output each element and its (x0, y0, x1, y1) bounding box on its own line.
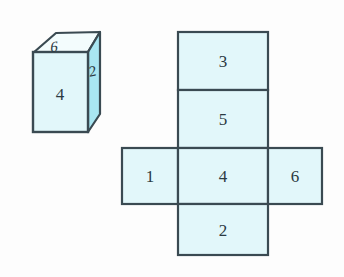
box-right-face (88, 32, 100, 132)
net-cell-center-label: 4 (219, 167, 228, 186)
net-cell-center: 4 (178, 148, 268, 204)
net-cell-left: 1 (122, 148, 178, 204)
box-front-label: 4 (56, 85, 65, 104)
cube-net: 3 5 1 4 6 (122, 32, 322, 255)
net-cell-right: 6 (268, 148, 322, 204)
diagram-svg: 6 4 2 3 5 1 (0, 0, 344, 277)
rectangular-box: 6 4 2 (33, 32, 100, 132)
figure-canvas: 6 4 2 3 5 1 (0, 0, 344, 277)
net-cell-bottom-label: 2 (219, 221, 228, 240)
box-right-label: 2 (88, 62, 97, 80)
net-cell-upper-middle-label: 5 (219, 110, 228, 129)
net-cell-left-label: 1 (146, 167, 155, 186)
net-cell-right-label: 6 (291, 167, 300, 186)
net-cell-upper-middle: 5 (178, 90, 268, 148)
net-cell-top: 3 (178, 32, 268, 90)
net-cell-top-label: 3 (219, 52, 228, 71)
net-cell-bottom: 2 (178, 204, 268, 255)
